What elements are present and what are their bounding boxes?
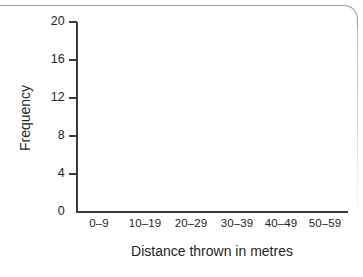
x-axis-line <box>76 211 348 213</box>
x-axis-label-40-49: 40–49 <box>258 217 304 229</box>
y-axis-label-20: 20 <box>51 15 65 28</box>
x-axis-label-20-29: 20–29 <box>168 217 214 229</box>
y-axis-line <box>76 22 78 213</box>
y-axis-title: Frequency <box>17 63 33 173</box>
y-axis-tick-4 <box>69 173 77 175</box>
y-axis-tick-12 <box>69 97 77 99</box>
y-axis-label-16: 16 <box>51 53 65 66</box>
y-axis-label-0: 0 <box>58 205 65 218</box>
x-axis-title: Distance thrown in metres <box>76 243 348 259</box>
x-axis-label-0-9: 0–9 <box>76 217 122 229</box>
x-axis-label-10-19: 10–19 <box>122 217 168 229</box>
frequency-chart: 20 16 12 8 4 0 0–9 10–19 20–29 30–39 40–… <box>0 0 363 277</box>
plot-area <box>78 22 348 211</box>
y-axis-label-12: 12 <box>51 91 65 104</box>
y-axis-tick-16 <box>69 59 77 61</box>
x-axis-label-50-59: 50–59 <box>302 217 348 229</box>
y-axis-label-4: 4 <box>58 167 65 180</box>
y-axis-tick-8 <box>69 135 77 137</box>
y-axis-label-8: 8 <box>58 129 65 142</box>
y-axis-tick-20 <box>69 21 77 23</box>
x-axis-label-30-39: 30–39 <box>214 217 260 229</box>
screenshot-root: 20 16 12 8 4 0 0–9 10–19 20–29 30–39 40–… <box>0 0 363 277</box>
